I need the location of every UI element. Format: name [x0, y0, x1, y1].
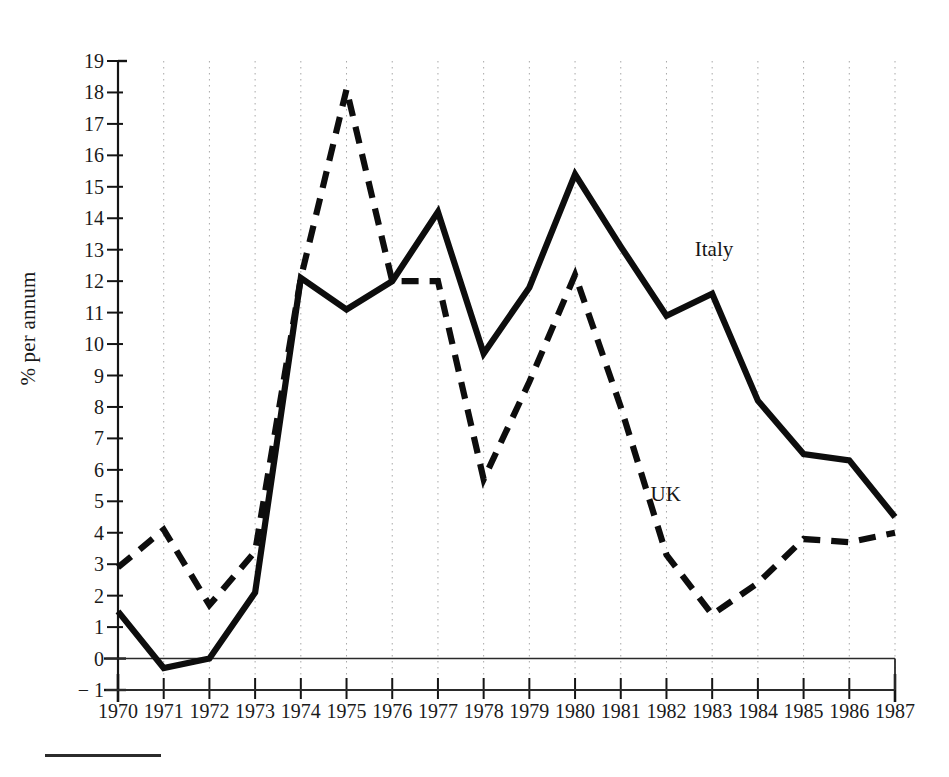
y-tick-label: 10 — [58, 334, 104, 354]
footer-rule — [45, 754, 161, 757]
y-tick-label: 7 — [58, 428, 104, 448]
y-tick-label: − 1 — [58, 680, 104, 700]
series-line-italy — [118, 174, 895, 668]
grid-lines — [118, 61, 895, 690]
x-tick-label: 1987 — [860, 700, 930, 722]
series-label-uk: UK — [650, 484, 680, 505]
y-tick-label: 12 — [58, 271, 104, 291]
y-tick-label: 9 — [58, 366, 104, 386]
y-tick-label: 16 — [58, 145, 104, 165]
y-tick-label: 17 — [58, 114, 104, 134]
y-tick-label: 19 — [58, 51, 104, 71]
axis-lines — [104, 61, 895, 702]
y-tick-label: 8 — [58, 397, 104, 417]
y-axis-tick-labels: − 1012345678910111213141516171819 — [58, 0, 104, 777]
series-label-italy: Italy — [695, 239, 733, 260]
y-tick-label: 5 — [58, 491, 104, 511]
y-axis-title: % per annum — [16, 219, 41, 439]
y-tick-label: 6 — [58, 460, 104, 480]
y-tick-label: 14 — [58, 208, 104, 228]
y-tick-label: 1 — [58, 617, 104, 637]
plot-area — [0, 0, 949, 777]
chart-figure: % per annum − 10123456789101112131415161… — [0, 0, 949, 777]
y-tick-label: 18 — [58, 82, 104, 102]
series-line-uk — [118, 89, 895, 614]
y-tick-label: 11 — [58, 303, 104, 323]
y-tick-label: 13 — [58, 240, 104, 260]
y-tick-label: 3 — [58, 554, 104, 574]
y-tick-label: 15 — [58, 177, 104, 197]
y-tick-label: 4 — [58, 523, 104, 543]
y-tick-label: 2 — [58, 586, 104, 606]
y-tick-label: 0 — [58, 649, 104, 669]
data-series — [118, 89, 895, 668]
x-axis-tick-labels: 1970197119721973197419751976197719781979… — [0, 700, 949, 740]
